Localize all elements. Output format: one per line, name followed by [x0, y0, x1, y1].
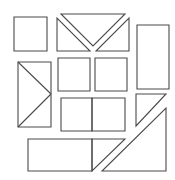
rectangle-bottom [28, 139, 92, 171]
tall-rectangle-right [137, 25, 169, 89]
triangle-small-right [136, 94, 166, 126]
diagonal-upper [18, 62, 51, 94]
shapes-layer [14, 14, 169, 171]
rectangle-left-with-diagonals [18, 62, 51, 127]
square-lower-right [92, 98, 125, 131]
triangle-bottom [92, 139, 125, 171]
triangle-right-of-envelope [96, 18, 129, 51]
tangram-diagram [0, 0, 175, 180]
square-top-left [14, 17, 47, 51]
square-middle-left [58, 58, 90, 91]
triangle-top-center [61, 14, 125, 46]
triangle-left-of-envelope [57, 18, 90, 51]
square-lower-left [61, 98, 92, 131]
diagonal-lower [18, 94, 51, 127]
square-middle-right [95, 58, 127, 91]
lines-layer [18, 62, 51, 127]
